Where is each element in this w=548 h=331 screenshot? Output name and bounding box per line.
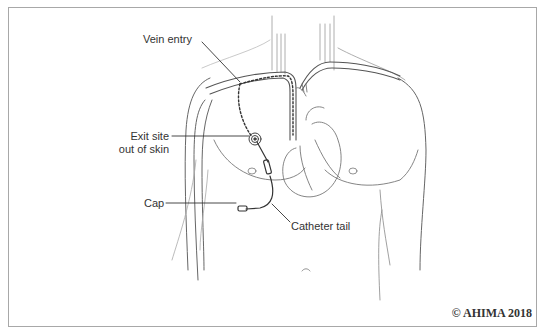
exit-site-label-line2: out of skin [106,143,169,156]
exit-site-label: Exit site out of skin [106,130,169,156]
catheter-tail-leader [272,204,290,222]
copyright-notice: © AHIMA 2018 [452,306,532,321]
catheter-tail-path [238,142,273,211]
right-arm-inner [380,190,390,265]
leader-lines [166,42,290,222]
left-jugular-vein [272,16,285,74]
subclavian-vein [206,62,400,140]
vein-entry-label: Vein entry [143,33,192,46]
catheter-tail-label: Catheter tail [291,220,350,233]
left-nipple [248,168,256,174]
right-torso [398,78,426,270]
cap-label: Cap [144,197,164,210]
torso-illustration [0,0,548,331]
left-arm [185,78,212,280]
catheter-inside-vein [239,76,294,137]
right-pectoral [325,150,418,185]
navel [302,269,310,271]
left-neck-line [202,40,270,68]
right-nipple [349,168,357,174]
exit-site [249,133,261,145]
right-neck-line [338,48,405,80]
exit-site-label-line1: Exit site [106,130,169,143]
heart [283,84,341,197]
vein-entry-leader [202,42,240,82]
